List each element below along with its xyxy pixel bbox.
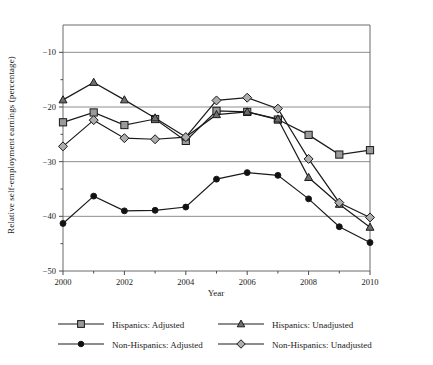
y-axis-tick-labels: −10−20−30−40−50 (43, 47, 56, 276)
y-tick-label: −50 (43, 266, 56, 276)
x-tick-label: 2002 (116, 277, 133, 287)
data-point-circle (91, 193, 97, 199)
data-point-circle (244, 170, 250, 176)
data-point-circle (152, 207, 158, 213)
x-axis-ticks (63, 271, 370, 275)
x-tick-label: 2000 (55, 277, 72, 287)
figure-container: Relative self-employment earnings (perce… (0, 0, 433, 365)
legend-label: Hispanics: Unadjusted (272, 320, 354, 330)
data-point-circle (275, 172, 281, 178)
legend-entry-0[interactable]: Hispanics: Adjusted (58, 320, 185, 330)
legend-entry-3[interactable]: Non-Hispanics: Unadjusted (218, 340, 372, 350)
data-point-circle (60, 220, 66, 226)
x-tick-label: 2004 (177, 277, 195, 287)
data-point-circle (214, 176, 220, 182)
legend-label: Non-Hispanics: Adjusted (112, 340, 203, 350)
data-point-square (78, 321, 85, 328)
y-axis-ticks (59, 52, 63, 271)
data-point-circle (306, 196, 312, 202)
data-point-circle (336, 224, 342, 230)
data-point-square (336, 151, 343, 158)
legend-label: Non-Hispanics: Unadjusted (272, 340, 372, 350)
legend-label: Hispanics: Adjusted (112, 320, 185, 330)
legend-entry-1[interactable]: Hispanics: Unadjusted (218, 320, 354, 330)
y-tick-label: −30 (43, 157, 56, 167)
x-axis-title: Year (208, 288, 225, 298)
data-point-square (366, 147, 373, 154)
data-point-circle (78, 341, 84, 347)
y-tick-label: −40 (43, 211, 56, 221)
plot-background (63, 25, 370, 271)
data-point-square (121, 121, 128, 128)
data-point-circle (121, 208, 127, 214)
y-tick-label: −20 (43, 102, 56, 112)
legend-entry-2[interactable]: Non-Hispanics: Adjusted (58, 340, 203, 350)
x-tick-label: 2006 (239, 277, 256, 287)
line-chart: −10−20−30−40−50 200020022004200620082010… (0, 0, 433, 365)
chart-legend: Hispanics: AdjustedHispanics: Unadjusted… (58, 320, 372, 350)
data-point-diamond (237, 340, 246, 349)
x-tick-label: 2008 (300, 277, 317, 287)
data-point-square (305, 131, 312, 138)
data-point-circle (367, 240, 373, 246)
data-point-circle (183, 204, 189, 210)
x-tick-label: 2010 (362, 277, 379, 287)
y-tick-label: −10 (43, 47, 56, 57)
x-axis-tick-labels: 200020022004200620082010 (55, 277, 379, 287)
data-point-square (59, 119, 66, 126)
